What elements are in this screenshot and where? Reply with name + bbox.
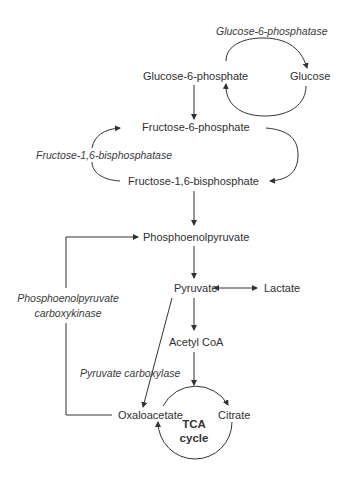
arrow-f6p-to-f16bp xyxy=(266,128,298,181)
node-glucose: Glucose xyxy=(290,70,330,82)
enzyme-pepck-line1: Phosphoenolpyruvate xyxy=(17,292,119,304)
node-fructose-6-phosphate: Fructose-6-phosphate xyxy=(142,121,250,133)
gluconeogenesis-pathway-diagram: Glucose-6-phosphatase Glucose-6-phosphat… xyxy=(0,0,338,478)
node-acetyl-coa: Acetyl CoA xyxy=(169,336,224,348)
arrow-pepck-to-pep xyxy=(66,237,138,288)
enzyme-glucose-6-phosphatase: Glucose-6-phosphatase xyxy=(216,25,328,37)
tca-label-line2: cycle xyxy=(180,432,209,444)
enzyme-pyruvate-carboxylase: Pyruvate carboxylase xyxy=(80,367,181,379)
arrow-pyruvate-to-oxaloacetate xyxy=(143,298,172,407)
arrow-oxaloacetate-to-citrate xyxy=(163,386,228,406)
node-fructose-1-6-bisphosphate: Fructose-1,6-bisphosphate xyxy=(128,175,259,187)
node-phosphoenolpyruvate: Phosphoenolpyruvate xyxy=(143,231,249,243)
node-citrate: Citrate xyxy=(218,409,250,421)
arrow-g6p-to-glucose xyxy=(226,38,307,68)
arrow-glucose-to-g6p xyxy=(226,84,306,116)
node-glucose-6-phosphate: Glucose-6-phosphate xyxy=(143,70,248,82)
tca-label-line1: TCA xyxy=(182,418,206,430)
node-lactate: Lactate xyxy=(264,282,300,294)
node-oxaloacetate: Oxaloacetate xyxy=(118,409,183,421)
node-pyruvate: Pyruvate xyxy=(174,282,217,294)
enzyme-fructose-1-6-bisphosphatase: Fructose-1,6-bisphosphatase xyxy=(36,149,172,161)
enzyme-pepck-line2: carboxykinase xyxy=(34,307,101,319)
